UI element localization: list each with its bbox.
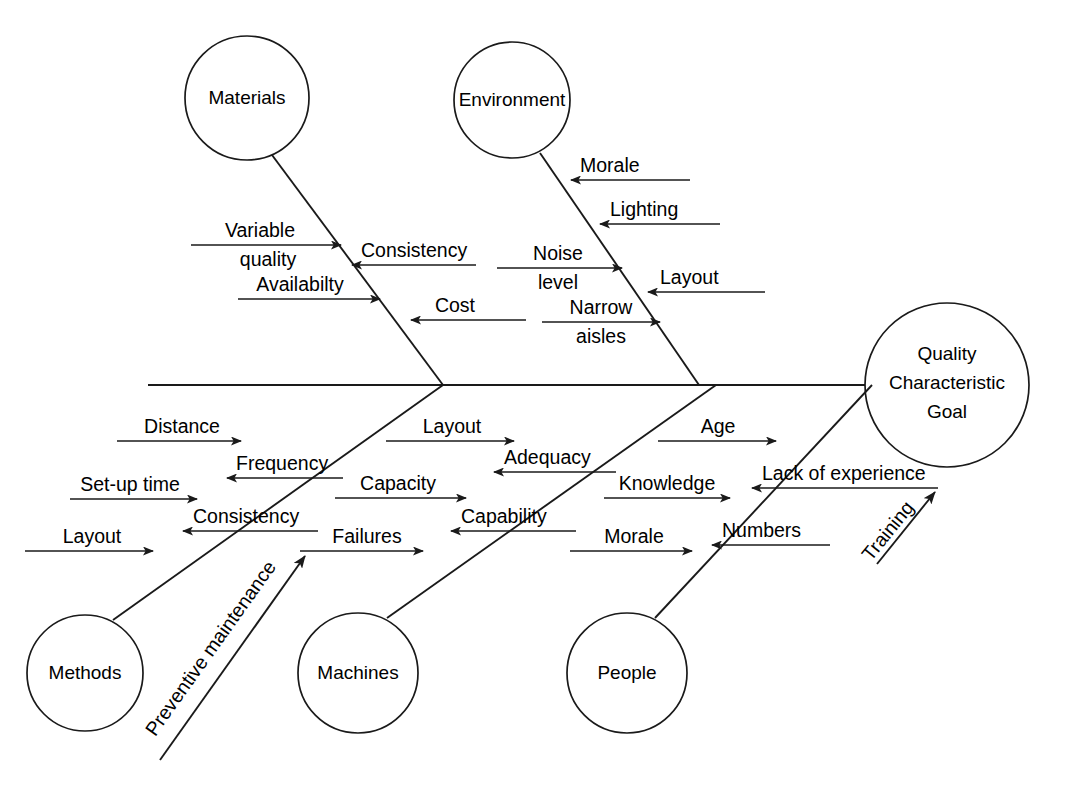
cause-label-variable: Variable [225,219,295,241]
cause-label-materials-consistency: Consistency [361,239,467,261]
cause-label-distance: Distance [144,415,220,437]
cause-label-noise: Noise [533,242,583,264]
cause-label-training: Training [857,497,918,565]
cause-label-methods-consistency: Consistency [193,505,299,527]
cause-label-frequency: Frequency [236,452,328,474]
cause-label-machines-layout: Layout [423,415,482,437]
cause-label-cost: Cost [435,294,476,316]
figure-caption [0,774,1075,790]
cause-label-preventive-maintenance: Preventive maintenance [141,556,280,739]
cause-label-people-morale: Morale [604,525,664,547]
cause-label-lack-of-experience: Lack of experience [762,462,926,484]
head-label-line2: Characteristic [889,372,1005,393]
category-label-methods: Methods [49,662,122,683]
cause-label-capability: Capability [461,505,547,527]
cause-label-capacity: Capacity [360,472,436,494]
cause-label-setup-time: Set-up time [80,473,180,495]
cause-label-numbers: Numbers [722,519,801,541]
cause-label-methods-layout: Layout [63,525,122,547]
category-label-materials: Materials [208,87,285,108]
cause-label-environment-layout: Layout [660,266,719,288]
cause-label-environment-morale: Morale [580,154,640,176]
cause-label-knowledge: Knowledge [619,472,716,494]
rib-people [655,385,872,618]
cause-label-failures: Failures [332,525,402,547]
category-label-machines: Machines [317,662,398,683]
cause-label-availability: Availabilty [256,273,344,295]
cause-label-lighting: Lighting [610,198,678,220]
head-label-line3: Goal [927,401,967,422]
fishbone-diagram: Quality Characteristic Goal Materials Va… [0,0,1075,790]
cause-line-preventive-maintenance [160,556,305,760]
cause-label-aisles: aisles [576,325,626,347]
rib-materials [272,155,443,385]
cause-label-quality: quality [240,248,297,270]
cause-label-age: Age [701,415,736,437]
category-label-environment: Environment [459,89,566,110]
fishbone-canvas: Quality Characteristic Goal Materials Va… [0,0,1075,790]
cause-label-level: level [538,271,578,293]
head-label-line1: Quality [917,343,977,364]
cause-label-adequacy: Adequacy [504,446,591,468]
cause-label-narrow: Narrow [570,296,634,318]
category-label-people: People [597,662,656,683]
